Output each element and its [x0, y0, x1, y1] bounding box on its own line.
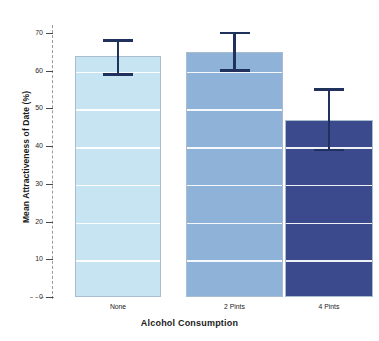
- gridline: [187, 223, 282, 225]
- y-axis-tick: 20: [46, 222, 53, 223]
- gridline: [286, 185, 372, 187]
- error-bar-lower-cap: [220, 69, 250, 72]
- gridline: [76, 147, 160, 149]
- x-axis-title: Alcohol Consumption: [0, 318, 379, 328]
- gridline: [187, 260, 282, 262]
- error-bar-upper-cap: [314, 88, 344, 91]
- error-bar-upper-cap: [103, 39, 133, 42]
- gridline: [76, 223, 160, 225]
- y-axis-tick: 40: [46, 146, 53, 147]
- y-axis-tick-label: 60: [35, 67, 43, 74]
- y-axis-tick-label: 0: [39, 293, 43, 300]
- gridline: [76, 185, 160, 187]
- y-axis-tick-label: 40: [35, 142, 43, 149]
- y-axis-tick-label: 10: [35, 255, 43, 262]
- y-axis-tick-label: 20: [35, 218, 43, 225]
- bar-chart: Mean Attractiveness of Date (%) 70605040…: [0, 0, 379, 341]
- error-bar-stem: [233, 33, 235, 71]
- error-bar-stem: [117, 41, 119, 75]
- y-axis-tick-label: 70: [35, 29, 43, 36]
- category-label: None: [75, 303, 161, 310]
- y-axis-tick-label: 50: [35, 104, 43, 111]
- gridline: [187, 147, 282, 149]
- plot-area: 706050403020100 None2 Pints4 Pints: [0, 0, 379, 341]
- bar-gridlines: [187, 53, 282, 296]
- bar: [186, 52, 283, 297]
- error-bar-lower-cap: [314, 149, 344, 152]
- y-axis-tick: 0: [46, 297, 53, 298]
- error-bar-lower-cap: [103, 73, 133, 76]
- gridline: [187, 185, 282, 187]
- error-bar-upper-cap: [220, 32, 250, 35]
- y-axis-tick: 30: [46, 184, 53, 185]
- error-bar-stem: [328, 90, 330, 150]
- gridline: [76, 260, 160, 262]
- bar-gridlines: [76, 57, 160, 296]
- y-axis-spine: [52, 25, 53, 299]
- y-axis-tick: 50: [46, 108, 53, 109]
- category-label: 4 Pints: [285, 303, 373, 310]
- bar: [75, 56, 161, 297]
- y-axis-tick: 60: [46, 71, 53, 72]
- gridline: [286, 260, 372, 262]
- gridline: [187, 109, 282, 111]
- y-axis-tick-label: 30: [35, 180, 43, 187]
- y-axis-tick: 70: [46, 33, 53, 34]
- gridline: [286, 223, 372, 225]
- category-label: 2 Pints: [186, 303, 283, 310]
- y-axis-tick: 10: [46, 259, 53, 260]
- gridline: [76, 109, 160, 111]
